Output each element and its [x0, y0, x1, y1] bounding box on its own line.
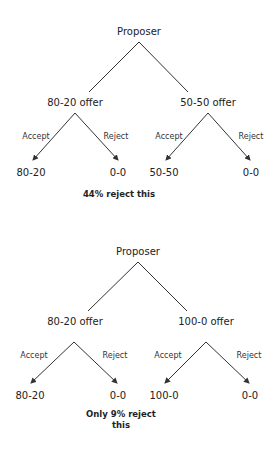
outcome: 0-0	[242, 390, 258, 401]
reject-label: Reject	[104, 132, 129, 141]
offer-node: 50-50 offer	[180, 97, 236, 108]
outcome: 80-20	[16, 167, 45, 178]
rejection-note: 44% reject this	[83, 189, 155, 199]
outcome: 80-20	[15, 390, 44, 401]
rejection-note-line1: Only 9% reject	[86, 409, 156, 419]
proposer-node: Proposer	[117, 26, 161, 37]
proposer-node: Proposer	[116, 246, 160, 257]
reject-label: Reject	[103, 351, 128, 360]
offer-node: 100-0 offer	[178, 316, 234, 327]
outcome: 100-0	[149, 390, 178, 401]
reject-label: Reject	[239, 132, 264, 141]
offer-node: 80-20 offer	[47, 97, 103, 108]
accept-label: Accept	[20, 351, 47, 360]
accept-label: Accept	[155, 132, 182, 141]
rejection-note-line2: this	[112, 420, 130, 430]
outcome: 0-0	[110, 390, 126, 401]
offer-node: 80-20 offer	[47, 316, 103, 327]
accept-label: Accept	[22, 132, 49, 141]
tree-lines	[0, 0, 279, 450]
accept-label: Accept	[154, 351, 181, 360]
outcome: 0-0	[243, 167, 259, 178]
outcome: 0-0	[110, 167, 126, 178]
reject-label: Reject	[237, 351, 262, 360]
outcome: 50-50	[149, 167, 178, 178]
